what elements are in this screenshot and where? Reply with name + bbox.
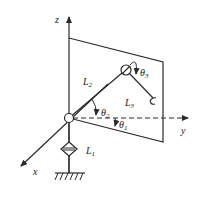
shoulder-joint-icon (65, 114, 74, 123)
y-axis-label: y (180, 125, 186, 136)
label-l2: L2 (82, 76, 93, 89)
label-l3: L3 (124, 97, 135, 110)
robot-arm-diagram: z y x L2 L3 L1 (0, 0, 203, 197)
prismatic-joint-icon (61, 123, 77, 173)
theta2-arc (92, 99, 96, 115)
gripper-icon (150, 98, 156, 104)
label-theta1: θ1 (119, 119, 127, 132)
label-theta3: θ3 (140, 67, 149, 80)
label-l1: L1 (85, 145, 95, 158)
label-theta2: θ2 (101, 107, 110, 120)
elbow-joint-icon (121, 65, 131, 75)
link-l2 (69, 73, 122, 118)
x-axis-label: x (32, 166, 38, 177)
z-axis-label: z (54, 14, 59, 25)
theta1-arc (115, 118, 116, 126)
ground-icon (55, 173, 85, 180)
working-plane (69, 38, 163, 142)
